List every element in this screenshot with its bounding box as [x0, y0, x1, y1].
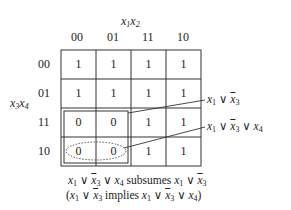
col-header-10: 10: [177, 30, 189, 45]
kmap-cell: 1: [166, 108, 201, 137]
row-header-10: 10: [38, 144, 50, 159]
kmap-cell: 1: [131, 79, 166, 108]
kmap-cell: 1: [166, 50, 201, 79]
col-var-label: x1x2: [121, 14, 140, 29]
kmap-cell: 1: [166, 137, 201, 166]
kmap-cell: 1: [61, 50, 96, 79]
kmap-cell: 1: [96, 50, 131, 79]
caption-line-1: x1 ∨ x3 ∨ x4 subsumes x1 ∨ x3: [68, 173, 207, 188]
kmap-cell: 1: [131, 108, 166, 137]
kmap-cell: 1: [166, 79, 201, 108]
kmap-cell: 1: [96, 79, 131, 108]
dotted-group-label: x1 ∨ x3 ∨ x4: [207, 119, 263, 134]
row-var-label: x3x4: [10, 96, 29, 111]
col-header-00: 00: [71, 30, 83, 45]
kmap-cell: 0: [96, 108, 131, 137]
row-header-00: 00: [38, 57, 50, 72]
row-header-01: 01: [38, 86, 50, 101]
kmap-cell: 0: [96, 137, 131, 166]
kmap-cell: 1: [131, 50, 166, 79]
kmap-cell: 0: [61, 137, 96, 166]
kmap-cell: 0: [61, 108, 96, 137]
col-header-11: 11: [142, 30, 154, 45]
solid-group-label: x1 ∨ x3: [207, 92, 239, 107]
caption-line-2: (x1 ∨ x3 implies x1 ∨ x3 ∨ x4): [66, 188, 201, 203]
col-header-01: 01: [107, 30, 119, 45]
kmap-cell: 1: [131, 137, 166, 166]
kmap-cell: 1: [61, 79, 96, 108]
row-header-11: 11: [38, 115, 50, 130]
